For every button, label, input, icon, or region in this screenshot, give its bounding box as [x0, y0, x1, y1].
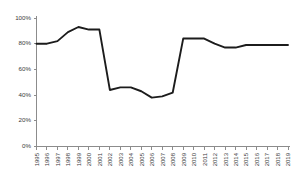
- x-tick-label: 2018: [275, 152, 281, 166]
- x-tick-label: 2011: [202, 152, 208, 166]
- x-tick-label: 2003: [118, 152, 124, 166]
- x-tick-label: 1996: [44, 152, 50, 166]
- x-tick-label: 2019: [285, 152, 291, 166]
- data-line-series-1: [37, 27, 289, 98]
- x-tick-label: 2006: [149, 152, 155, 166]
- x-tick-label: 2012: [212, 152, 218, 166]
- x-tick-label: 2005: [139, 152, 145, 166]
- x-tick-label: 2010: [191, 152, 197, 166]
- x-tick-label: 2002: [107, 152, 113, 166]
- x-tick-label: 2009: [181, 152, 187, 166]
- x-tick-label: 2001: [97, 152, 103, 166]
- x-tick-label: 1999: [76, 152, 82, 166]
- x-tick-label: 2008: [170, 152, 176, 166]
- line-chart: 0%20%40%60%80%100%1995199619971998199920…: [0, 0, 296, 183]
- x-tick-label: 2014: [233, 152, 239, 166]
- x-tick-label: 2017: [264, 152, 270, 166]
- y-tick-label: 0%: [22, 142, 31, 149]
- x-tick-label: 2004: [128, 152, 134, 166]
- y-tick-label: 100%: [15, 14, 31, 21]
- y-tick-label: 80%: [19, 39, 32, 46]
- x-tick-label: 2007: [160, 152, 166, 166]
- x-tick-label: 2000: [86, 152, 92, 166]
- chart-canvas: 0%20%40%60%80%100%1995199619971998199920…: [0, 0, 296, 183]
- x-tick-label: 2013: [223, 152, 229, 166]
- x-tick-label: 2016: [254, 152, 260, 166]
- y-tick-label: 20%: [19, 116, 32, 123]
- x-tick-label: 1997: [55, 152, 61, 166]
- y-tick-label: 40%: [19, 91, 32, 98]
- x-tick-label: 1998: [65, 152, 71, 166]
- x-tick-label: 1995: [34, 152, 40, 166]
- y-tick-label: 60%: [19, 65, 32, 72]
- x-tick-label: 2015: [243, 152, 249, 166]
